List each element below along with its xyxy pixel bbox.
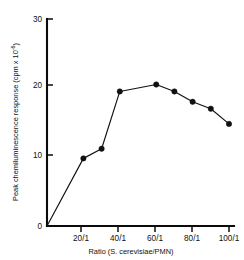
- data-point-8: [226, 121, 231, 126]
- y-tick-label-30: 30: [33, 15, 43, 24]
- y-axis-title-main: Peak chemiluminescence response: [11, 85, 20, 201]
- x-tick-label-20: 20/1: [73, 234, 89, 243]
- x-tick-label-60: 60/1: [147, 234, 163, 243]
- y-tick-label-10: 10: [33, 151, 43, 160]
- x-tick-label-40: 40/1: [110, 234, 126, 243]
- y-tick-label-20: 20: [33, 81, 43, 90]
- x-tick-label-80: 80/1: [184, 234, 200, 243]
- y-axis-title-units: (cpm x 10: [11, 50, 20, 82]
- data-point-3: [117, 89, 122, 94]
- x-tick-label-100: 100/1: [219, 234, 240, 243]
- data-point-6: [190, 99, 195, 104]
- data-point-2: [99, 146, 104, 151]
- y-tick-label-0: 0: [37, 222, 42, 231]
- data-point-5: [172, 89, 177, 94]
- y-axis-title-units-close: ): [11, 43, 20, 45]
- data-point-4: [154, 82, 159, 87]
- line-chart-canvas: 30 20 10 0 20/1 40/1 60/1 80/1 100/1 Rat…: [0, 0, 244, 260]
- data-point-1: [81, 156, 86, 161]
- chart-background: [0, 0, 244, 260]
- y-axis-title: Peak chemiluminescence response (cpm x 1…: [10, 43, 20, 201]
- x-axis-title: Ratio (S. cerevisiae/PMN): [88, 247, 173, 256]
- data-point-7: [208, 106, 213, 111]
- chart-figure: 30 20 10 0 20/1 40/1 60/1 80/1 100/1 Rat…: [0, 0, 244, 260]
